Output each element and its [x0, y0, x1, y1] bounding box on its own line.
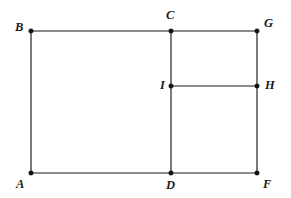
vertex-dot-a — [29, 171, 34, 176]
vertex-dot-h — [255, 84, 260, 89]
vertex-dot-g — [255, 29, 260, 34]
vertex-dot-b — [29, 29, 34, 34]
vertex-dot-c — [169, 29, 174, 34]
vertices-group — [29, 29, 260, 176]
vertex-label-g: G — [264, 17, 273, 30]
vertex-label-d: D — [166, 179, 175, 192]
figure-canvas — [0, 0, 291, 198]
segments-group — [31, 31, 257, 173]
vertex-dot-f — [255, 171, 260, 176]
vertex-label-i: I — [160, 79, 165, 92]
vertex-label-b: B — [15, 21, 23, 34]
geometry-figure: ABCDFGHI — [0, 0, 291, 198]
vertex-dot-i — [169, 84, 174, 89]
vertex-label-f: F — [263, 178, 271, 191]
vertex-dot-d — [169, 171, 174, 176]
vertex-label-h: H — [265, 79, 275, 92]
vertex-label-a: A — [16, 178, 24, 191]
vertex-label-c: C — [166, 9, 174, 22]
